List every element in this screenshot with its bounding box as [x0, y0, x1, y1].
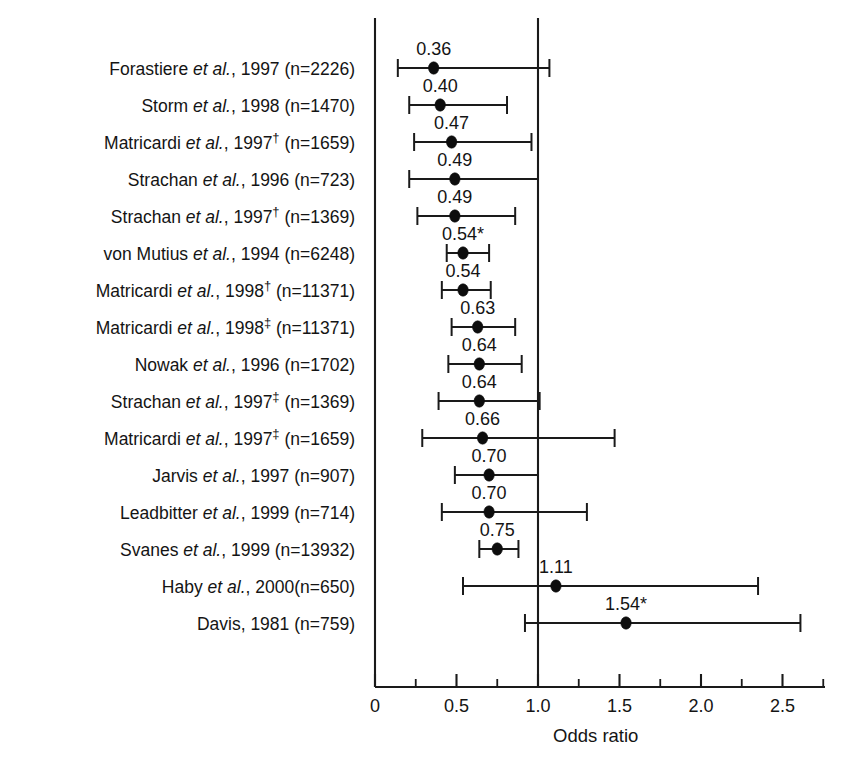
study-label: Svanes et al., 1999 (n=13932)	[120, 540, 355, 560]
point-estimate-marker	[551, 580, 561, 592]
forest-row: 0.54*	[442, 224, 489, 262]
odds-ratio-value-label: 0.64	[462, 335, 497, 355]
forest-row: 0.70	[442, 483, 587, 521]
point-estimate-marker	[484, 506, 494, 518]
point-estimate-marker	[621, 617, 631, 629]
x-tick-label: 0	[370, 696, 380, 716]
forest-row: 0.64	[439, 372, 540, 410]
point-estimate-marker	[428, 62, 438, 74]
odds-ratio-value-label: 0.66	[465, 409, 500, 429]
study-label: Strachan et al., 1997‡ (n=1369)	[111, 388, 355, 412]
point-estimate-marker	[435, 99, 445, 111]
odds-ratio-value-label: 0.54	[445, 261, 480, 281]
forest-row: 0.75	[479, 520, 518, 558]
odds-ratio-value-label: 0.64	[462, 372, 497, 392]
point-estimate-marker	[458, 284, 468, 296]
odds-ratio-value-label: 0.70	[472, 446, 507, 466]
study-label: Matricardi et al., 1997‡ (n=1659)	[104, 425, 355, 449]
forest-row: 0.66	[422, 409, 614, 447]
point-estimate-marker	[446, 136, 456, 148]
forest-row: 1.11	[463, 557, 758, 595]
point-estimate-marker	[472, 321, 482, 333]
forest-row: 0.70	[455, 446, 538, 484]
odds-ratio-value-label: 1.11	[539, 557, 573, 577]
forest-row: 0.49	[417, 187, 515, 225]
x-tick-label: 2.0	[688, 696, 713, 716]
x-tick-label: 2.5	[770, 696, 795, 716]
forest-row: 0.64	[448, 335, 521, 373]
odds-ratio-value-label: 0.49	[437, 150, 472, 170]
odds-ratio-value-label: 0.40	[423, 76, 458, 96]
x-tick-label: 1.5	[607, 696, 632, 716]
forest-row: 0.36	[398, 39, 550, 77]
forest-row: 0.40	[409, 76, 507, 114]
point-estimate-marker	[474, 358, 484, 370]
point-estimate-marker	[458, 247, 468, 259]
point-estimate-marker	[484, 469, 494, 481]
point-estimate-marker	[450, 210, 460, 222]
forest-row: 1.54*	[525, 594, 800, 632]
study-label-column: Forastiere et al., 1997 (n=2226)Storm et…	[96, 59, 355, 634]
point-estimate-marker	[450, 173, 460, 185]
odds-ratio-value-label: 1.54*	[605, 594, 647, 614]
study-label: Nowak et al., 1996 (n=1702)	[135, 355, 355, 375]
x-axis-title: Odds ratio	[553, 725, 638, 746]
study-label: Strachan et al., 1997† (n=1369)	[111, 203, 355, 227]
forest-plot-figure: Forastiere et al., 1997 (n=2226)Storm et…	[0, 0, 843, 780]
forest-row: 0.47	[414, 113, 531, 151]
x-tick-label: 0.5	[444, 696, 469, 716]
point-estimate-marker	[477, 432, 487, 444]
study-label: Matricardi et al., 1997† (n=1659)	[104, 129, 355, 153]
x-tick-label: 1.0	[525, 696, 550, 716]
data-rows: 0.360.400.470.490.490.54*0.540.630.640.6…	[398, 39, 801, 632]
study-label: Davis, 1981 (n=759)	[197, 614, 355, 634]
odds-ratio-value-label: 0.70	[472, 483, 507, 503]
point-estimate-marker	[492, 543, 502, 555]
odds-ratio-value-label: 0.36	[416, 39, 451, 59]
study-label: Jarvis et al., 1997 (n=907)	[152, 466, 355, 486]
point-estimate-marker	[474, 395, 484, 407]
odds-ratio-value-label: 0.63	[460, 298, 495, 318]
x-axis-tick-labels: 00.51.01.52.02.5	[370, 696, 795, 716]
odds-ratio-value-label: 0.54*	[442, 224, 484, 244]
forest-plot-svg: Forastiere et al., 1997 (n=2226)Storm et…	[0, 0, 843, 780]
forest-row: 0.63	[452, 298, 516, 336]
study-label: Matricardi et al., 1998† (n=11371)	[96, 277, 355, 301]
study-label: Storm et al., 1998 (n=1470)	[141, 96, 355, 116]
odds-ratio-value-label: 0.49	[437, 187, 472, 207]
study-label: Strachan et al., 1996 (n=723)	[128, 170, 355, 190]
study-label: Leadbitter et al., 1999 (n=714)	[120, 503, 355, 523]
forest-row: 0.54	[442, 261, 491, 299]
study-label: Forastiere et al., 1997 (n=2226)	[109, 59, 355, 79]
study-label: Haby et al., 2000(n=650)	[162, 577, 355, 597]
study-label: Matricardi et al., 1998‡ (n=11371)	[96, 314, 355, 338]
study-label: von Mutius et al., 1994 (n=6248)	[104, 244, 356, 264]
odds-ratio-value-label: 0.47	[434, 113, 469, 133]
odds-ratio-value-label: 0.75	[480, 520, 515, 540]
forest-row: 0.49	[409, 150, 538, 188]
x-axis-ticks	[375, 674, 823, 687]
